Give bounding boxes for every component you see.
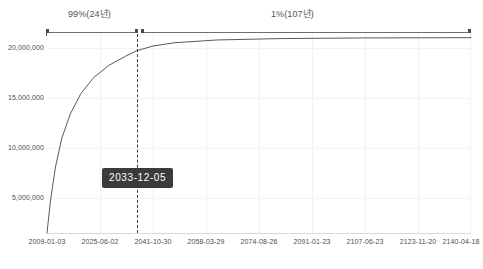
y-tick-label: 5,000,000 (0, 194, 44, 201)
x-tick-label: 2091-01-23 (294, 238, 331, 245)
x-tick-label: 2140-04-18 (443, 238, 480, 245)
plot-area (47, 33, 471, 233)
y-tick-label: 15,000,000 (0, 94, 44, 101)
chart-container: 99%(24년) 1%(107년) 2033-12-05 (0, 0, 483, 269)
x-tick-label: 2025-06-02 (82, 238, 119, 245)
x-axis-tick-labels: 2009-01-03 2025-06-02 2041-10-30 2058-03… (0, 238, 483, 252)
x-tick-label: 2123-11-20 (400, 238, 436, 245)
tooltip: 2033-12-05 (102, 168, 173, 188)
phase-left-label: 99%(24년) (68, 7, 111, 20)
marker-vertical-line (137, 34, 138, 233)
x-tick-label: 2074-08-26 (241, 238, 278, 245)
x-tick-label: 2107-06-23 (347, 238, 384, 245)
y-axis-tick-labels: 20,000,000 15,000,000 10,000,000 5,000,0… (0, 0, 44, 269)
y-tick-label: 20,000,000 (0, 44, 44, 51)
series-curve (47, 33, 471, 233)
phase-right-label: 1%(107년) (271, 7, 314, 20)
x-tick-label: 2041-10-30 (135, 238, 172, 245)
series-line-path (47, 38, 471, 233)
y-tick-label: 10,000,000 (0, 144, 44, 151)
x-tick-label: 2058-03-29 (188, 238, 225, 245)
x-axis-spine (47, 233, 471, 234)
x-tick-label: 2009-01-03 (29, 238, 66, 245)
